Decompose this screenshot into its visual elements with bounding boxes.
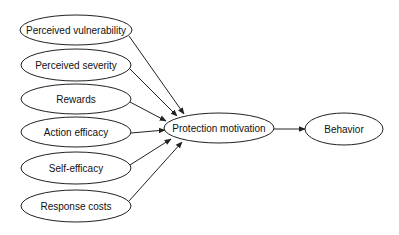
arrow-response-costs-to-protection-motivation [129, 142, 182, 201]
node-label: Response costs [40, 201, 111, 212]
node-perceived-vulnerability: Perceived vulnerability [20, 15, 132, 45]
node-self-efficacy: Self-efficacy [21, 152, 131, 184]
node-rewards: Rewards [21, 84, 131, 114]
node-protection-motivation: Protection motivation [164, 113, 274, 143]
node-response-costs: Response costs [21, 190, 131, 222]
node-label: Perceived vulnerability [26, 25, 126, 36]
nodes-layer: Perceived vulnerabilityPerceived severit… [20, 15, 383, 222]
arrow-perceived-vulnerability-to-protection-motivation [129, 36, 184, 114]
node-perceived-severity: Perceived severity [21, 49, 131, 81]
node-label: Rewards [56, 94, 95, 105]
node-label: Behavior [324, 124, 364, 135]
node-label: Perceived severity [35, 60, 117, 71]
arrow-action-efficacy-to-protection-motivation [131, 130, 165, 133]
node-label: Protection motivation [172, 123, 265, 134]
node-behavior: Behavior [305, 113, 383, 145]
node-label: Action efficacy [44, 127, 108, 138]
node-action-efficacy: Action efficacy [21, 117, 131, 147]
arrow-rewards-to-protection-motivation [130, 102, 166, 121]
arrow-perceived-severity-to-protection-motivation [130, 69, 177, 116]
protection-motivation-diagram: Perceived vulnerabilityPerceived severit… [0, 0, 399, 235]
node-label: Self-efficacy [49, 163, 103, 174]
